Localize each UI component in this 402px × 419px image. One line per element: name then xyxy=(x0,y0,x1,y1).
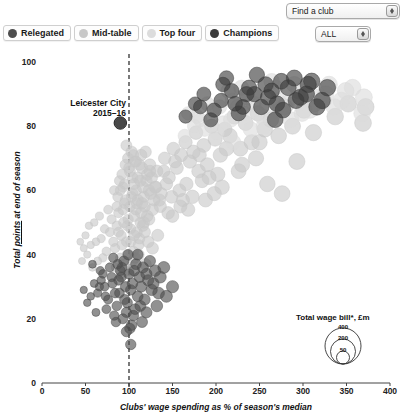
x-tick-label: 50 xyxy=(73,386,99,396)
data-point[interactable] xyxy=(89,260,97,268)
data-point[interactable] xyxy=(107,215,116,224)
data-point[interactable] xyxy=(309,99,325,115)
data-point[interactable] xyxy=(96,266,104,274)
data-point[interactable] xyxy=(149,181,161,193)
data-point[interactable] xyxy=(249,67,264,82)
data-point[interactable] xyxy=(84,251,91,258)
x-tick-label: 400 xyxy=(377,386,402,396)
data-point[interactable] xyxy=(239,87,254,102)
data-point[interactable] xyxy=(129,230,140,241)
x-tick-label: 100 xyxy=(116,386,142,396)
data-point[interactable] xyxy=(174,200,187,213)
data-point[interactable] xyxy=(112,301,122,311)
data-point[interactable] xyxy=(178,129,191,142)
data-point[interactable] xyxy=(180,177,193,190)
data-point[interactable] xyxy=(193,148,207,162)
data-point[interactable] xyxy=(337,83,354,100)
data-point[interactable] xyxy=(85,222,93,230)
size-legend-label: 200 xyxy=(333,335,353,341)
data-point[interactable] xyxy=(80,245,87,252)
data-point[interactable] xyxy=(166,281,178,293)
data-point[interactable] xyxy=(158,165,170,177)
data-point[interactable] xyxy=(132,249,143,260)
data-point[interactable] xyxy=(120,195,131,206)
data-point[interactable] xyxy=(300,76,316,92)
data-point[interactable] xyxy=(109,237,118,246)
data-point[interactable] xyxy=(115,185,125,195)
data-point[interactable] xyxy=(113,259,123,269)
data-point[interactable] xyxy=(151,300,163,312)
data-point[interactable] xyxy=(87,241,95,249)
data-point[interactable] xyxy=(271,128,287,144)
data-point[interactable] xyxy=(226,135,241,150)
data-point[interactable] xyxy=(78,257,85,264)
data-point[interactable] xyxy=(123,249,133,259)
y-tick-label: 20 xyxy=(14,314,36,324)
data-point[interactable] xyxy=(235,157,250,172)
data-point[interactable] xyxy=(216,77,231,92)
data-point[interactable] xyxy=(121,140,132,151)
data-point[interactable] xyxy=(80,286,87,293)
data-point[interactable] xyxy=(110,311,119,320)
leicester-city-bubble[interactable] xyxy=(114,117,126,129)
data-point[interactable] xyxy=(83,299,91,307)
data-point[interactable] xyxy=(126,320,136,330)
data-point[interactable] xyxy=(162,207,175,220)
data-point[interactable] xyxy=(252,135,267,150)
data-point[interactable] xyxy=(138,217,150,229)
data-point[interactable] xyxy=(160,178,173,191)
annotation-line-2: 2015–16 xyxy=(70,108,126,118)
data-point[interactable] xyxy=(267,112,283,128)
data-point[interactable] xyxy=(274,186,290,202)
data-point[interactable] xyxy=(355,89,372,106)
data-point[interactable] xyxy=(116,272,126,282)
data-point[interactable] xyxy=(248,151,263,166)
leicester-annotation: Leicester City 2015–16 xyxy=(70,98,126,118)
data-point[interactable] xyxy=(207,187,221,201)
data-point[interactable] xyxy=(112,202,122,212)
data-point[interactable] xyxy=(130,304,141,315)
data-point[interactable] xyxy=(153,194,165,206)
data-point[interactable] xyxy=(140,146,152,158)
data-point[interactable] xyxy=(117,240,127,250)
annotation-line-1: Leicester City xyxy=(70,98,126,108)
data-point[interactable] xyxy=(126,339,136,349)
data-point[interactable] xyxy=(260,90,276,106)
data-point[interactable] xyxy=(186,190,200,204)
data-point[interactable] xyxy=(169,155,182,168)
data-point[interactable] xyxy=(153,287,165,299)
data-point[interactable] xyxy=(193,100,207,114)
data-point[interactable] xyxy=(142,236,154,248)
data-point[interactable] xyxy=(101,292,110,301)
data-point[interactable] xyxy=(120,294,130,304)
data-point[interactable] xyxy=(319,79,336,96)
data-point[interactable] xyxy=(204,113,218,127)
data-point[interactable] xyxy=(102,305,111,314)
data-point[interactable] xyxy=(137,317,148,328)
data-point[interactable] xyxy=(114,227,124,237)
data-point[interactable] xyxy=(92,308,100,316)
data-point[interactable] xyxy=(95,212,103,220)
data-point[interactable] xyxy=(289,153,305,169)
data-point[interactable] xyxy=(144,255,155,266)
data-point[interactable] xyxy=(202,171,216,185)
data-point[interactable] xyxy=(100,225,109,234)
data-point[interactable] xyxy=(77,238,84,245)
data-point[interactable] xyxy=(104,205,113,214)
data-point[interactable] xyxy=(260,176,276,192)
data-point[interactable] xyxy=(130,156,141,167)
data-point[interactable] xyxy=(82,232,89,239)
data-point[interactable] xyxy=(144,165,156,177)
data-point[interactable] xyxy=(288,92,304,108)
data-point[interactable] xyxy=(158,262,170,274)
data-point[interactable] xyxy=(95,283,103,291)
data-point[interactable] xyxy=(136,198,147,209)
data-point[interactable] xyxy=(108,279,117,288)
data-point[interactable] xyxy=(305,124,321,140)
data-point[interactable] xyxy=(119,217,129,227)
data-point[interactable] xyxy=(354,105,371,122)
data-point[interactable] xyxy=(273,73,289,89)
data-point[interactable] xyxy=(135,175,146,186)
data-point[interactable] xyxy=(179,110,192,123)
data-point[interactable] xyxy=(210,125,224,139)
